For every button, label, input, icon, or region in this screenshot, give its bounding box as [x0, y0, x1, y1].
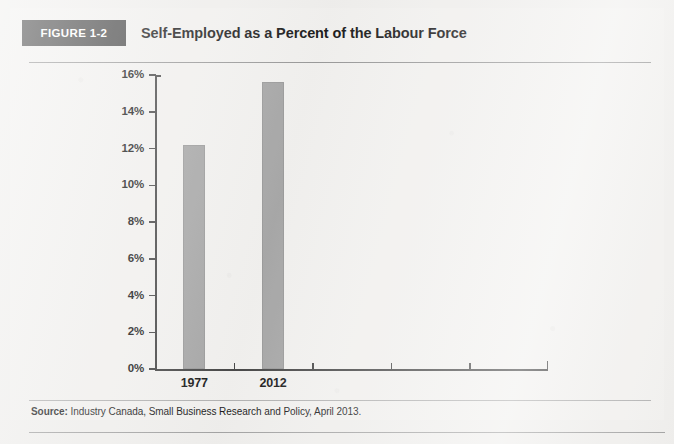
x-axis-end-cap: [547, 361, 549, 370]
source-label: Source:: [31, 406, 68, 417]
y-axis-tick-label: 6%: [104, 252, 144, 264]
y-axis-tick: [149, 111, 156, 113]
y-axis-tick-label: 4%: [104, 289, 144, 301]
y-axis-tick-label: 0%: [104, 362, 144, 374]
y-axis-tick-label: 14%: [104, 105, 144, 117]
y-axis-tick-label: 16%: [104, 68, 144, 80]
x-axis-tick: [312, 363, 314, 370]
x-axis-tick: [234, 363, 236, 370]
bar: [183, 145, 205, 369]
y-axis-tick: [149, 368, 156, 370]
y-axis-tick: [149, 258, 156, 260]
x-axis-tick: [391, 363, 393, 370]
source-divider: [29, 400, 651, 401]
card-bottom-divider: [29, 432, 665, 433]
figure-page: FIGURE 1-2 Self-Employed as a Percent of…: [0, 0, 674, 444]
y-axis-tick: [149, 221, 156, 223]
y-axis-tick: [149, 332, 156, 334]
figure-card: FIGURE 1-2 Self-Employed as a Percent of…: [10, 8, 664, 420]
y-axis-tick-label: 12%: [104, 142, 144, 154]
source-text: Industry Canada, Small Business Research…: [68, 406, 361, 417]
y-axis-tick-label: 10%: [104, 178, 144, 190]
bar: [262, 82, 284, 369]
x-axis-tick-label: 1977: [159, 376, 229, 390]
y-axis-tick: [149, 295, 156, 297]
y-axis-tick-label: 8%: [104, 215, 144, 227]
x-axis-tick: [469, 363, 471, 370]
y-axis-tick: [149, 185, 156, 187]
y-axis-tick-label: 2%: [104, 325, 144, 337]
y-axis-tick: [149, 148, 156, 150]
chart-plot-area: 0%2%4%6%8%10%12%14%16% 19772012: [10, 8, 664, 420]
x-axis-line: [155, 369, 548, 371]
x-axis-tick-label: 2012: [238, 376, 308, 390]
source-note: Source: Industry Canada, Small Business …: [31, 406, 361, 417]
y-axis-tick: [149, 74, 156, 76]
